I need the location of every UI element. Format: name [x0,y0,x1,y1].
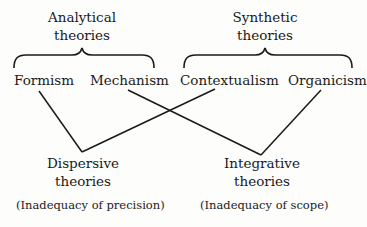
dispersive-line1: Dispersive [38,157,128,171]
node-organicism: Organicism [288,74,367,88]
integrative-note: (Inadequacy of scope) [200,200,326,212]
edge-organicism-integrative [261,90,321,155]
dispersive-line2: theories [38,175,128,189]
integrative-theories: Integrative theories [222,157,302,188]
edge-mechanism-integrative [128,90,261,155]
edge-formism-dispersive [39,91,82,152]
synthetic-line1: Synthetic [226,11,304,25]
synthetic-line2: theories [226,29,304,43]
analytical-brace [14,48,154,68]
analytical-theories-heading: Analytical theories [40,11,124,42]
node-formism: Formism [14,74,74,88]
edge-contextualism-dispersive [82,89,215,152]
dispersive-note: (Inadequacy of precision) [16,200,156,212]
dispersive-theories: Dispersive theories [38,157,128,188]
synthetic-theories-heading: Synthetic theories [226,11,304,42]
node-mechanism: Mechanism [90,74,169,88]
node-contextualism: Contextualism [180,74,279,88]
integrative-line2: theories [222,175,302,189]
synthetic-brace [184,48,352,68]
analytical-line2: theories [40,29,124,43]
integrative-line1: Integrative [222,157,302,171]
analytical-line1: Analytical [40,11,124,25]
